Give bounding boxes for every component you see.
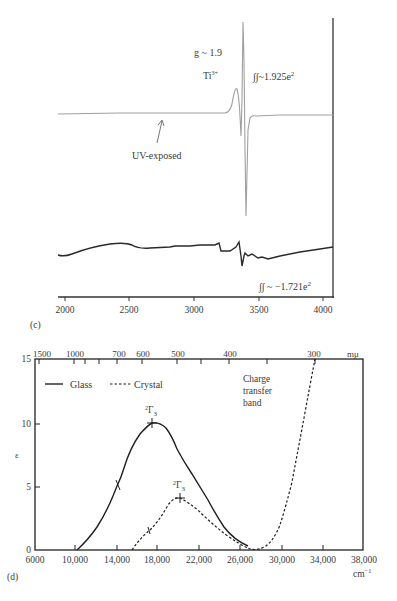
crystal-peak-marker (148, 493, 185, 534)
svg-text:1000: 1000 (66, 349, 85, 359)
ti3-annotation: Ti3+ (203, 70, 219, 81)
svg-text:15: 15 (22, 354, 32, 364)
glass-curve (77, 423, 248, 550)
svg-text:2500: 2500 (120, 305, 139, 315)
svg-text:transfer: transfer (243, 386, 273, 396)
untreated-trace (58, 242, 333, 266)
integral-uv-annotation: ∫∫~1.925e2 (252, 70, 295, 83)
legend: Glass Crystal (45, 379, 163, 390)
integral-base-annotation: ∫∫ ~ −1.721e2 (258, 280, 311, 293)
svg-text:0: 0 (26, 545, 31, 555)
svg-text:38,000: 38,000 (351, 555, 377, 565)
svg-text:10: 10 (22, 419, 32, 429)
svg-text:18,000: 18,000 (144, 555, 170, 565)
svg-text:3000: 3000 (185, 305, 204, 315)
svg-text:400: 400 (223, 349, 237, 359)
y-axis-label: ε (15, 450, 19, 460)
svg-text:30,000: 30,000 (269, 555, 295, 565)
top-ticks (39, 359, 315, 364)
g-value-annotation: g ~ 1.9 (194, 47, 222, 58)
svg-text:14,000: 14,000 (104, 555, 130, 565)
panel-d-chart: 1500 1000 700 600 500 400 300 mμ 0 5 (7, 349, 377, 583)
svg-text:1500: 1500 (33, 349, 52, 359)
svg-text:4000: 4000 (314, 305, 333, 315)
svg-text:300: 300 (307, 349, 321, 359)
svg-text:22,000: 22,000 (186, 555, 212, 565)
svg-text:700: 700 (112, 349, 126, 359)
top-tick-labels: 1500 1000 700 600 500 400 300 mμ (33, 349, 359, 359)
svg-text:3500: 3500 (250, 305, 269, 315)
uv-exposed-label: UV-exposed (132, 150, 182, 161)
panel-d-label: (d) (7, 572, 18, 583)
uv-exposed-arrow-icon (157, 120, 164, 143)
svg-text:10,000: 10,000 (62, 555, 88, 565)
legend-crystal-label: Crystal (134, 379, 163, 390)
x-tick-labels: 2000 2500 3000 3500 4000 (56, 305, 333, 315)
svg-text:34,000: 34,000 (310, 555, 336, 565)
svg-text:2000: 2000 (56, 305, 75, 315)
y-tick-labels: 0 5 10 15 (22, 354, 32, 555)
y-ticks (35, 424, 40, 487)
figure-canvas: g ~ 1.9 Ti3+ ∫∫~1.925e2 UV-exposed ∫∫ ~ … (0, 0, 397, 601)
svg-text:26,000: 26,000 (227, 555, 253, 565)
panel-c-chart: g ~ 1.9 Ti3+ ∫∫~1.925e2 UV-exposed ∫∫ ~ … (30, 18, 334, 331)
legend-glass-label: Glass (70, 379, 92, 390)
glass-peak-marker (116, 418, 157, 490)
x-axis-unit: cm−1 (353, 567, 372, 579)
svg-text:600: 600 (136, 349, 150, 359)
charge-transfer-annotation: Charge transfer band (243, 374, 273, 408)
svg-text:Charge: Charge (243, 374, 270, 384)
x-ticks (75, 545, 323, 550)
top-unit-label: mμ (347, 349, 359, 359)
svg-text:5: 5 (26, 482, 31, 492)
glass-peak-label: 2Γ3 (145, 405, 158, 418)
crystal-peak-label: 2Γ3 (173, 480, 186, 493)
panel-c-label: (c) (30, 320, 41, 331)
svg-text:band: band (243, 398, 262, 408)
svg-text:6000: 6000 (26, 555, 45, 565)
x-tick-labels: 6000 10,000 14,000 18,000 22,000 26,000 … (26, 555, 378, 565)
svg-text:500: 500 (171, 349, 185, 359)
